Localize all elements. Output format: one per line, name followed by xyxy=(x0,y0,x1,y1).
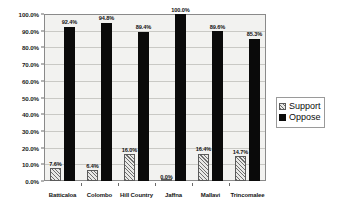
bar-group: 14.7%85.3% xyxy=(229,14,266,181)
bar-group: 16.0%89.4% xyxy=(118,14,155,181)
y-tick-label: 90.0% xyxy=(22,27,39,34)
y-tick-label: 30.0% xyxy=(22,127,39,134)
bar-value-label: 94.8% xyxy=(99,15,114,21)
x-tick-label: Batticaloa xyxy=(49,192,77,198)
y-tick-label: 20.0% xyxy=(22,144,39,151)
bar-value-label: 0.0% xyxy=(160,174,172,180)
y-tick-label: 100.0% xyxy=(19,11,39,18)
bar-value-label: 92.4% xyxy=(62,19,77,25)
bar-chart: 100.0%90.0%80.0%70.0%60.0%50.0%40.0%30.0… xyxy=(0,0,351,221)
bar-value-label: 85.3% xyxy=(247,31,262,37)
solid-swatch-icon xyxy=(279,114,286,121)
y-tick-label: 0.0% xyxy=(25,178,39,185)
x-tick-mark xyxy=(229,183,230,186)
y-tick-label: 10.0% xyxy=(22,161,39,168)
y-axis: 100.0%90.0%80.0%70.0%60.0%50.0%40.0%30.0… xyxy=(0,14,44,181)
bar-value-label: 89.6% xyxy=(210,24,225,30)
bar-group: 16.4%89.6% xyxy=(192,14,229,181)
bar-support[interactable] xyxy=(198,154,210,181)
y-tick-label: 70.0% xyxy=(22,61,39,68)
x-tick-label: Colombo xyxy=(87,192,112,198)
bar-oppose[interactable] xyxy=(175,14,187,181)
y-tick-label: 40.0% xyxy=(22,111,39,118)
bar-value-label: 100.0% xyxy=(171,7,189,13)
bar-value-label: 14.7% xyxy=(233,149,248,155)
legend-label-oppose: Oppose xyxy=(289,113,321,122)
bar-oppose[interactable] xyxy=(249,39,261,181)
y-tick-label: 50.0% xyxy=(22,94,39,101)
y-tick-label: 60.0% xyxy=(22,77,39,84)
x-tick-mark xyxy=(118,183,119,186)
bar-value-label: 89.4% xyxy=(136,24,151,30)
legend-item-support[interactable]: Support xyxy=(279,102,321,111)
bar-value-label: 7.6% xyxy=(49,161,61,167)
y-tick-label: 80.0% xyxy=(22,44,39,51)
bar-oppose[interactable] xyxy=(212,31,224,181)
x-tick-label: Jaffna xyxy=(165,192,182,198)
bar-value-label: 16.0% xyxy=(122,147,137,153)
legend-item-oppose[interactable]: Oppose xyxy=(279,113,321,122)
bar-value-label: 16.4% xyxy=(196,146,211,152)
bar-support[interactable] xyxy=(50,168,62,181)
x-tick-mark xyxy=(81,183,82,186)
bar-oppose[interactable] xyxy=(138,32,150,181)
x-tick-mark xyxy=(155,183,156,186)
bar-support[interactable] xyxy=(235,156,247,181)
bars-layer: 7.6%92.4%6.4%94.8%16.0%89.4%0.0%100.0%16… xyxy=(44,14,266,181)
x-tick-label: Trincomalee xyxy=(231,192,265,198)
chart-legend: Support Oppose xyxy=(276,97,325,128)
legend-label-support: Support xyxy=(289,102,321,111)
bar-group: 0.0%100.0% xyxy=(155,14,192,181)
bar-support[interactable] xyxy=(124,154,136,181)
bar-support[interactable] xyxy=(87,170,99,181)
bar-group: 7.6%92.4% xyxy=(44,14,81,181)
bar-oppose[interactable] xyxy=(101,23,113,181)
x-tick-label: Mallavi xyxy=(201,192,220,198)
x-axis: BatticaloaColomboHill CountryJaffnaMalla… xyxy=(44,183,266,205)
bar-oppose[interactable] xyxy=(64,27,76,181)
bar-group: 6.4%94.8% xyxy=(81,14,118,181)
x-tick-mark xyxy=(192,183,193,186)
hatched-swatch-icon xyxy=(279,103,286,110)
x-tick-label: Hill Country xyxy=(120,192,153,198)
bar-value-label: 6.4% xyxy=(86,163,98,169)
